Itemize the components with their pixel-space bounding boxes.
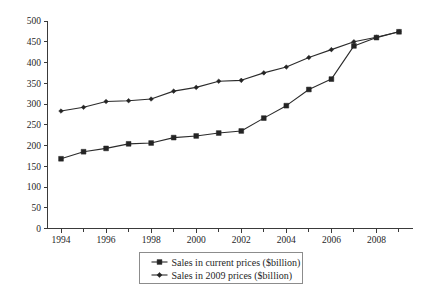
legend-item-2[interactable]: Sales in 2009 prices ($billion) [152, 270, 293, 282]
legend-label: Sales in current prices ($billion) [172, 257, 301, 269]
data-point-marker [194, 85, 199, 90]
y-tick-label: 200 [27, 141, 42, 151]
data-point-marker [104, 99, 109, 104]
data-point-marker [261, 71, 266, 76]
x-tick-label: 2008 [367, 235, 386, 245]
x-axis-ticks: 19941996199820002002200420062008 [52, 229, 399, 246]
y-tick-label: 500 [27, 16, 42, 26]
data-point-marker [194, 134, 199, 139]
line-chart: 050100150200250300350400450500 199419961… [0, 0, 421, 298]
data-point-marker [216, 131, 221, 136]
y-tick-label: 0 [36, 224, 41, 234]
chart-container: 050100150200250300350400450500 199419961… [0, 0, 421, 298]
data-point-marker [171, 135, 176, 140]
y-axis-ticks: 050100150200250300350400450500 [27, 16, 48, 234]
data-point-marker [239, 78, 244, 83]
y-tick-label: 150 [27, 162, 42, 172]
series-line [61, 32, 399, 111]
series-layer [59, 29, 402, 161]
y-tick-label: 250 [27, 120, 42, 130]
data-point-marker [104, 146, 109, 151]
y-tick-label: 300 [27, 99, 42, 109]
series-line [61, 32, 399, 159]
data-point-marker [126, 98, 131, 103]
data-point-marker [171, 89, 176, 94]
x-tick-label: 1994 [52, 235, 71, 245]
data-point-marker [81, 149, 86, 154]
y-tick-label: 100 [27, 182, 42, 192]
y-tick-label: 50 [32, 203, 42, 213]
x-tick-label: 2006 [322, 235, 341, 245]
y-tick-label: 450 [27, 37, 42, 47]
data-point-marker [284, 103, 289, 108]
data-point-marker [126, 141, 131, 146]
data-point-marker [306, 87, 311, 92]
data-point-marker [216, 79, 221, 84]
data-point-marker [81, 105, 86, 110]
data-point-marker [329, 77, 334, 82]
data-point-marker [239, 129, 244, 134]
data-point-marker [307, 55, 312, 60]
data-point-marker [261, 116, 266, 121]
legend-marker [157, 260, 162, 265]
x-tick-label: 1998 [142, 235, 161, 245]
chart-legend: Sales in current prices ($billion)Sales … [140, 253, 303, 284]
x-tick-label: 2002 [232, 235, 251, 245]
data-point-marker [149, 97, 154, 102]
x-tick-label: 2000 [187, 235, 206, 245]
y-tick-label: 400 [27, 58, 42, 68]
legend-label: Sales in 2009 prices ($billion) [172, 270, 293, 282]
x-tick-label: 1996 [97, 235, 116, 245]
data-point-marker [329, 47, 334, 52]
data-point-marker [149, 141, 154, 146]
series-1 [59, 29, 402, 161]
data-point-marker [284, 65, 289, 70]
x-tick-label: 2004 [277, 235, 296, 245]
data-point-marker [59, 156, 64, 161]
data-point-marker [59, 109, 64, 114]
series-2 [59, 29, 402, 113]
y-tick-label: 350 [27, 79, 42, 89]
legend-item-1[interactable]: Sales in current prices ($billion) [152, 257, 301, 269]
